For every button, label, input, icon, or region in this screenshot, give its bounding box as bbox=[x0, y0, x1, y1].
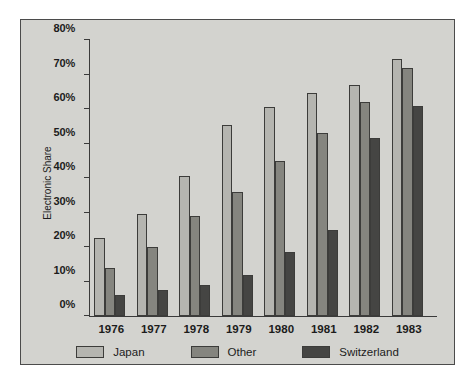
y-axis-tick-label: 80% bbox=[54, 22, 75, 34]
bar bbox=[190, 216, 200, 316]
legend-item: Japan bbox=[76, 346, 144, 358]
y-axis-tick-label: 30% bbox=[54, 195, 75, 207]
x-axis-tick-label: 1976 bbox=[98, 323, 124, 335]
y-axis-tick-label: 70% bbox=[54, 57, 75, 69]
bar-group: 1979 bbox=[218, 40, 261, 316]
bar bbox=[147, 247, 157, 316]
bar-group: 1976 bbox=[90, 40, 133, 316]
bar bbox=[413, 106, 423, 316]
x-axis-tick-label: 1980 bbox=[268, 323, 294, 335]
bar bbox=[264, 107, 274, 316]
bar bbox=[402, 68, 412, 316]
bar bbox=[179, 176, 189, 316]
plot-area: 0%10%20%30%40%50%60%70%80% 1976197719781… bbox=[90, 40, 430, 316]
bar bbox=[307, 93, 317, 316]
legend-swatch bbox=[191, 346, 219, 358]
legend-item: Switzerland bbox=[302, 346, 398, 358]
bar bbox=[317, 133, 327, 316]
bar bbox=[275, 161, 285, 316]
bar bbox=[349, 85, 359, 316]
bar-group: 1982 bbox=[345, 40, 388, 316]
bar bbox=[243, 275, 253, 316]
y-axis-tick-label: 60% bbox=[54, 91, 75, 103]
legend-item: Other bbox=[191, 346, 257, 358]
bar-group: 1977 bbox=[133, 40, 176, 316]
bar bbox=[285, 252, 295, 316]
bar bbox=[137, 214, 147, 316]
y-axis-tick-label: 50% bbox=[54, 126, 75, 138]
legend-swatch bbox=[76, 346, 104, 358]
x-axis-tick-label: 1977 bbox=[141, 323, 167, 335]
chart-figure: Electronic Share 0%10%20%30%40%50%60%70%… bbox=[20, 19, 455, 365]
y-axis-tick-label: 40% bbox=[54, 160, 75, 172]
bar bbox=[200, 285, 210, 316]
bar-group: 1978 bbox=[175, 40, 218, 316]
y-axis-tick-label: 20% bbox=[54, 229, 75, 241]
bar bbox=[392, 59, 402, 316]
bar-group: 1980 bbox=[260, 40, 303, 316]
x-axis-tick-label: 1982 bbox=[353, 323, 379, 335]
bar bbox=[115, 295, 125, 316]
bar bbox=[370, 138, 380, 316]
x-axis-tick-label: 1979 bbox=[226, 323, 252, 335]
legend-label: Switzerland bbox=[339, 346, 398, 358]
legend-swatch bbox=[302, 346, 330, 358]
y-axis-tick-label: 0% bbox=[60, 298, 76, 310]
bar bbox=[105, 268, 115, 316]
bar-group: 1981 bbox=[303, 40, 346, 316]
bar bbox=[158, 290, 168, 316]
bar bbox=[328, 230, 338, 316]
chart-legend: JapanOtherSwitzerland bbox=[21, 346, 454, 358]
y-axis-title: Electronic Share bbox=[42, 146, 53, 219]
bar bbox=[232, 192, 242, 316]
bar bbox=[222, 125, 232, 316]
bar bbox=[94, 238, 104, 316]
bar-group: 1983 bbox=[388, 40, 431, 316]
bar bbox=[360, 102, 370, 316]
legend-label: Other bbox=[228, 346, 257, 358]
y-axis-tick-label: 10% bbox=[54, 264, 75, 276]
x-axis-line bbox=[89, 316, 437, 317]
legend-label: Japan bbox=[113, 346, 144, 358]
x-axis-tick-label: 1978 bbox=[183, 323, 209, 335]
x-axis-tick-label: 1981 bbox=[311, 323, 337, 335]
x-axis-tick-label: 1983 bbox=[396, 323, 422, 335]
